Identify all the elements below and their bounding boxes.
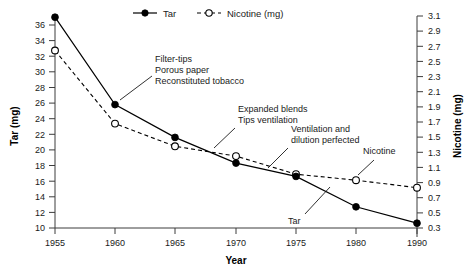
left-tick-16: 16 xyxy=(35,177,45,187)
nicotine-point-1960 xyxy=(112,120,119,127)
annotation-tar-callout: Tar xyxy=(288,187,330,226)
nicotine-point-1990 xyxy=(414,184,421,191)
right-tick-1-7: 1.7 xyxy=(428,117,441,127)
tar-nicotine-line-chart: Tar Nicotine (mg) xyxy=(0,0,471,272)
series-nicotine xyxy=(52,47,421,191)
left-tick-30: 30 xyxy=(35,67,45,77)
legend-nicotine-label: Nicotine (mg) xyxy=(227,8,284,19)
chart-page: Tar Nicotine (mg) xyxy=(0,0,471,272)
y-axis-title: Tar (mg) xyxy=(9,106,20,145)
left-axis: 10 12 14 16 18 20 22 24 26 28 30 32 34 3… xyxy=(9,16,55,233)
right-tick-2-5: 2.5 xyxy=(428,57,441,67)
right-tick-1-9: 1.9 xyxy=(428,102,441,112)
x-tick-1970: 1970 xyxy=(226,238,246,248)
series-tar xyxy=(52,14,421,227)
left-tick-36: 36 xyxy=(35,20,45,30)
tar-point-1960 xyxy=(112,101,119,108)
tar-point-1955 xyxy=(52,14,59,21)
left-tick-28: 28 xyxy=(35,83,45,93)
nicotine-point-1955 xyxy=(52,47,59,54)
x-axis-ticks xyxy=(55,228,417,234)
left-tick-10: 10 xyxy=(35,223,45,233)
x-axis-tick-labels: 1955 1960 1965 1970 1975 1980 1990 xyxy=(45,238,427,248)
right-axis: 0.3 0.5 0.7 0.9 1.1 1.3 1.5 1.7 1.9 2.1 … xyxy=(417,11,463,237)
annotation-filter-tips: Filter-tips Porous paper Reconstituted t… xyxy=(120,54,244,100)
annotation-filter-tips-line1: Filter-tips xyxy=(155,54,193,64)
left-tick-20: 20 xyxy=(35,145,45,155)
left-tick-26: 26 xyxy=(35,98,45,108)
annotation-expanded-blends-line1: Expanded blends xyxy=(238,104,308,114)
right-tick-0-9: 0.9 xyxy=(428,178,441,188)
legend-nicotine-marker xyxy=(206,10,212,16)
annotation-ventilation-dilution: Ventilation and dilution perfected xyxy=(268,124,360,168)
left-tick-22: 22 xyxy=(35,130,45,140)
chart-legend: Tar Nicotine (mg) xyxy=(133,8,284,19)
x-tick-1980: 1980 xyxy=(346,238,366,248)
annotation-nicotine-leader xyxy=(358,160,374,175)
annotation-ventilation-dilution-line1: Ventilation and xyxy=(291,124,350,134)
right-tick-1-3: 1.3 xyxy=(428,148,441,158)
nicotine-point-1980 xyxy=(353,177,360,184)
annotation-ventilation-dilution-line2: dilution perfected xyxy=(291,135,360,145)
left-axis-tick-labels: 10 12 14 16 18 20 22 24 26 28 30 32 34 3… xyxy=(35,20,45,233)
y2-axis-title: Nicotine (mg) xyxy=(452,94,463,158)
nicotine-point-1965 xyxy=(172,143,179,150)
x-tick-1960: 1960 xyxy=(105,238,125,248)
annotation-nicotine-label: Nicotine xyxy=(363,146,396,156)
annotation-nicotine-callout: Nicotine xyxy=(358,146,396,175)
tar-point-1975 xyxy=(293,173,300,180)
left-tick-24: 24 xyxy=(35,114,45,124)
left-tick-18: 18 xyxy=(35,161,45,171)
x-tick-1955: 1955 xyxy=(45,238,65,248)
x-tick-1990: 1990 xyxy=(407,238,427,248)
tar-point-1965 xyxy=(172,134,179,141)
left-tick-12: 12 xyxy=(35,208,45,218)
right-tick-0-3: 0.3 xyxy=(428,223,441,233)
annotation-filter-tips-leader xyxy=(120,76,152,100)
right-tick-0-5: 0.5 xyxy=(428,208,441,218)
legend-tar-label: Tar xyxy=(163,8,176,19)
right-tick-3-1: 3.1 xyxy=(428,11,441,21)
left-tick-34: 34 xyxy=(35,36,45,46)
right-tick-2-3: 2.3 xyxy=(428,72,441,82)
nicotine-polyline xyxy=(55,51,417,188)
x-tick-1975: 1975 xyxy=(286,238,306,248)
right-axis-ticks xyxy=(417,16,423,228)
annotation-expanded-blends-line2: Tips ventilation xyxy=(238,115,298,125)
annotation-filter-tips-line2: Porous paper xyxy=(155,65,209,75)
legend-tar-marker xyxy=(142,10,148,16)
tar-point-1990 xyxy=(414,220,421,227)
right-axis-tick-labels: 0.3 0.5 0.7 0.9 1.1 1.3 1.5 1.7 1.9 2.1 … xyxy=(428,11,441,233)
right-tick-2-9: 2.9 xyxy=(428,26,441,36)
annotation-tar-label: Tar xyxy=(288,216,301,226)
x-axis: 1955 1960 1965 1970 1975 1980 1990 Year xyxy=(45,228,427,266)
right-tick-2-7: 2.7 xyxy=(428,42,441,52)
left-tick-32: 32 xyxy=(35,52,45,62)
annotation-expanded-blends-leader xyxy=(214,128,235,148)
x-axis-title: Year xyxy=(225,255,246,266)
left-axis-ticks xyxy=(49,25,55,228)
annotation-ventilation-dilution-leader xyxy=(268,148,288,168)
tar-polyline xyxy=(55,17,417,223)
nicotine-point-1970 xyxy=(233,153,240,160)
tar-point-1970 xyxy=(233,160,240,167)
tar-point-1980 xyxy=(353,203,360,210)
right-tick-2-1: 2.1 xyxy=(428,87,441,97)
legend-entry-nicotine: Nicotine (mg) xyxy=(197,8,284,19)
annotation-filter-tips-line3: Reconstituted tobacco xyxy=(155,76,244,86)
left-tick-14: 14 xyxy=(35,192,45,202)
x-tick-1965: 1965 xyxy=(165,238,185,248)
legend-entry-tar: Tar xyxy=(133,8,176,19)
right-tick-0-7: 0.7 xyxy=(428,193,441,203)
annotation-tar-leader xyxy=(305,187,330,214)
right-tick-1-1: 1.1 xyxy=(428,163,441,173)
right-tick-1-5: 1.5 xyxy=(428,132,441,142)
